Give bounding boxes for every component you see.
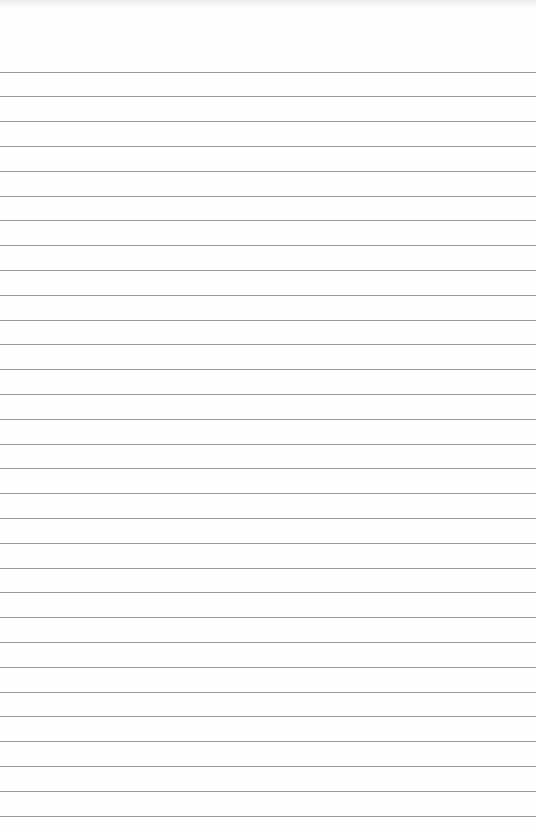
- ruled-line: [0, 394, 536, 395]
- ruled-line: [0, 220, 536, 221]
- ruled-line: [0, 692, 536, 693]
- ruled-line: [0, 419, 536, 420]
- ruled-line: [0, 72, 536, 73]
- ruled-line: [0, 642, 536, 643]
- ruled-line: [0, 741, 536, 742]
- ruled-line: [0, 121, 536, 122]
- ruled-line: [0, 270, 536, 271]
- ruled-line: [0, 245, 536, 246]
- ruled-line: [0, 667, 536, 668]
- ruled-line: [0, 592, 536, 593]
- ruled-line: [0, 344, 536, 345]
- ruled-line: [0, 369, 536, 370]
- ruled-line: [0, 816, 536, 817]
- ruled-line: [0, 171, 536, 172]
- ruled-line: [0, 791, 536, 792]
- ruled-line: [0, 444, 536, 445]
- ruled-line: [0, 493, 536, 494]
- ruled-line: [0, 468, 536, 469]
- ruled-line: [0, 766, 536, 767]
- ruled-line: [0, 568, 536, 569]
- ruled-line: [0, 543, 536, 544]
- ruled-line: [0, 146, 536, 147]
- ruled-line: [0, 518, 536, 519]
- ruled-line: [0, 716, 536, 717]
- lined-paper-sheet: [0, 0, 536, 832]
- ruled-line: [0, 196, 536, 197]
- ruled-line: [0, 320, 536, 321]
- ruled-line: [0, 295, 536, 296]
- ruled-line: [0, 617, 536, 618]
- top-edge-shadow: [0, 0, 536, 8]
- ruled-line: [0, 96, 536, 97]
